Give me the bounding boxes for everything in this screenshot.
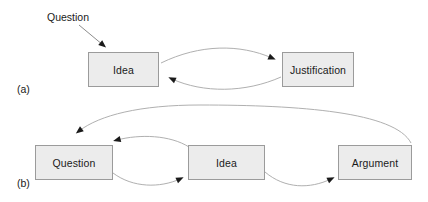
- node-argument-b[interactable]: Argument: [338, 145, 412, 180]
- connector-idea-to-justification-a: [161, 48, 272, 63]
- node-idea-b[interactable]: Idea: [188, 145, 265, 180]
- panel-label-a: (a): [17, 83, 30, 95]
- node-idea-a[interactable]: Idea: [88, 52, 159, 87]
- connector-idea-to-question-b: [117, 136, 189, 147]
- node-question-b[interactable]: Question: [35, 145, 113, 180]
- connector-question-to-idea-a: [79, 25, 103, 45]
- connector-question-to-idea-b: [113, 173, 180, 185]
- node-justification-a[interactable]: Justification: [282, 52, 354, 87]
- connector-justification-to-idea-a: [172, 77, 281, 89]
- diagram-figure: Question Idea Justification (a) Question…: [0, 0, 428, 202]
- panel-label-b: (b): [17, 177, 30, 189]
- connector-idea-to-argument-b: [265, 172, 331, 186]
- question-source-label: Question: [47, 11, 89, 23]
